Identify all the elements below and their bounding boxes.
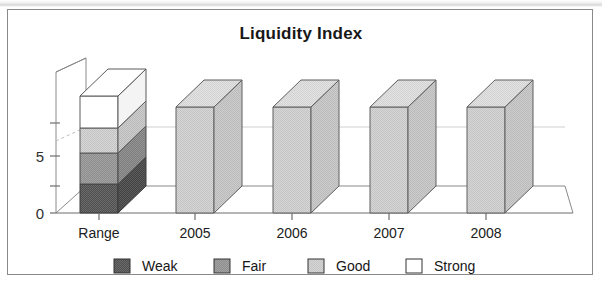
legend-label-fair: Fair [242,258,266,274]
bar-2008[interactable] [467,80,533,213]
legend-label-weak: Weak [142,258,179,274]
legend-swatch-fair [214,259,230,273]
legend-item-weak[interactable]: Weak [114,258,179,274]
legend-item-good[interactable]: Good [308,258,370,274]
legend-swatch-strong [406,259,422,273]
x-tick-label-2008: 2008 [470,225,501,241]
chart-figure: Liquidity Index [7,9,593,275]
legend-swatch-weak [114,259,130,273]
legend: Weak Fair Good Strong [114,258,475,274]
x-axis-ticks [99,213,486,220]
plot-area: 0 5 [8,10,594,276]
legend-label-good: Good [336,258,370,274]
x-tick-label-range: Range [78,225,119,241]
x-tick-label-2005: 2005 [179,225,210,241]
bar-2006[interactable] [273,80,339,213]
y-tick-label-0: 0 [36,205,44,222]
bar-2005[interactable] [176,80,242,213]
bar-range-stack[interactable] [80,69,146,213]
x-tick-label-2006: 2006 [276,225,307,241]
x-tick-label-2007: 2007 [373,225,404,241]
legend-item-fair[interactable]: Fair [214,258,266,274]
legend-item-strong[interactable]: Strong [406,258,475,274]
y-axis-ticks [50,123,60,213]
y-tick-label-5: 5 [36,148,44,165]
bar-2007[interactable] [370,80,436,213]
legend-label-strong: Strong [434,258,475,274]
legend-swatch-good [308,259,324,273]
scan-artifact-strip [0,0,602,7]
